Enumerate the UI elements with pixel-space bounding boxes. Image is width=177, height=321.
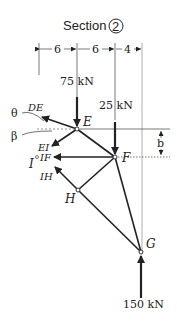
load-label-f: 25 kN bbox=[99, 99, 133, 112]
member-label-de: DE bbox=[27, 102, 44, 113]
truss-section-diagram: Section 2 6 6 4 b bbox=[0, 0, 177, 321]
joints bbox=[75, 127, 143, 254]
section-number: 2 bbox=[112, 19, 119, 34]
node-label-g: G bbox=[146, 237, 156, 251]
theta-leader bbox=[22, 112, 44, 121]
dimension-3: 4 bbox=[124, 43, 131, 56]
dimension-2: 6 bbox=[92, 43, 99, 56]
joint-g bbox=[139, 250, 143, 254]
load-label-e: 75 kN bbox=[60, 75, 94, 88]
joint-f bbox=[113, 155, 117, 159]
beta-leader bbox=[22, 131, 52, 135]
point-i-marker bbox=[36, 156, 39, 159]
joint-e bbox=[75, 127, 79, 131]
node-label-e: E bbox=[82, 115, 92, 129]
dimension-1: 6 bbox=[54, 43, 61, 56]
load-label-g: 150 kN bbox=[123, 298, 164, 311]
truss-members bbox=[77, 129, 141, 252]
member-label-ih: IH bbox=[39, 171, 53, 182]
node-label-h: H bbox=[64, 192, 76, 206]
joint-h bbox=[76, 188, 80, 192]
node-label-f: F bbox=[121, 151, 131, 165]
point-label-i: I bbox=[28, 157, 34, 171]
beta-label: β bbox=[11, 130, 17, 143]
height-label: b bbox=[157, 137, 164, 150]
theta-label: θ bbox=[11, 107, 18, 120]
member-label-if: IF bbox=[39, 152, 52, 163]
section-title: Section 2 bbox=[63, 18, 123, 34]
title-text: Section bbox=[63, 18, 106, 33]
